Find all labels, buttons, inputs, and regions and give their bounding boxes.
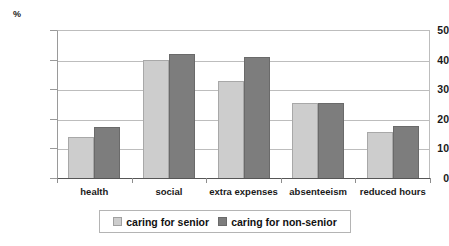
legend-label-senior: caring for senior — [126, 216, 209, 228]
bar-reduced-hours-senior — [367, 132, 393, 178]
legend-swatch-icon-non-senior — [218, 217, 227, 226]
bar-reduced-hours-non-senior — [393, 126, 419, 178]
bar-health-non-senior — [94, 127, 120, 178]
y-axis-tick-mark — [50, 148, 57, 149]
x-axis-category-separator — [206, 178, 207, 183]
y-axis-tick-mark — [50, 60, 57, 61]
legend-item-caring-for-senior: caring for senior — [113, 216, 209, 228]
bar-extra-expenses-senior — [218, 81, 244, 178]
bar-extra-expenses-non-senior — [244, 57, 270, 178]
bar-social-senior — [143, 60, 169, 178]
x-axis-category-separator — [281, 178, 282, 183]
bar-absenteeism-non-senior — [318, 103, 344, 178]
y-axis-tick-mark — [50, 30, 57, 31]
x-axis-baseline — [57, 178, 431, 179]
x-axis-category-label-reduced-hours: reduced hours — [360, 186, 426, 197]
y-axis-tick-mark — [50, 89, 57, 90]
bar-absenteeism-senior — [292, 103, 318, 178]
bar-chart-figure: % 01020304050 healthsocialextra expenses… — [0, 0, 449, 246]
x-axis-category-separator — [132, 178, 133, 183]
bar-social-non-senior — [169, 54, 195, 178]
legend-swatch-icon-senior — [113, 217, 122, 226]
x-axis-category-label-health: health — [80, 186, 108, 197]
legend-label-non-senior: caring for non-senior — [231, 216, 337, 228]
bar-health-senior — [68, 137, 94, 178]
x-axis-category-label-absenteeism: absenteeism — [289, 186, 347, 197]
x-axis-end-tick — [430, 178, 431, 183]
x-axis-category-separator — [355, 178, 356, 183]
y-axis-tick-mark — [50, 178, 57, 179]
y-axis-tick-mark — [50, 119, 57, 120]
y-axis-unit-label: % — [13, 9, 21, 19]
x-axis-category-label-extra-expenses: extra expenses — [209, 186, 278, 197]
x-axis-end-tick — [57, 178, 58, 183]
legend-item-caring-for-non-senior: caring for non-senior — [218, 216, 337, 228]
x-axis-category-label-social: social — [155, 186, 182, 197]
chart-legend: caring for senior caring for non-senior — [99, 210, 351, 233]
